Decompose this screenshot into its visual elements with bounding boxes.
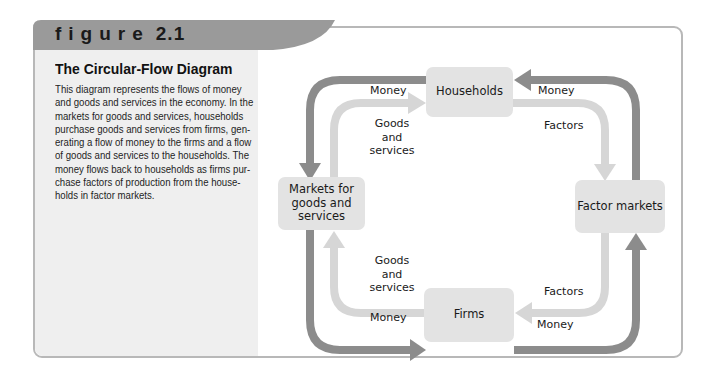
- label-factors-bottom-right: Factors: [544, 285, 583, 299]
- label-money-bottom-right: Money: [537, 318, 573, 332]
- node-firms: Firms: [424, 288, 514, 342]
- node-markets-line: goods and: [289, 197, 354, 211]
- factors-arrow-households-to-factor-markets: [512, 103, 605, 166]
- factors-arrow-factor-markets-to-firms: [530, 232, 605, 313]
- node-households: Households: [426, 67, 513, 117]
- node-markets-for-goods-and-services: Markets for goods and services: [278, 177, 365, 230]
- label-line: Goods: [362, 254, 422, 268]
- node-firms-label: Firms: [454, 308, 485, 322]
- node-factor-markets-label: Factor markets: [577, 200, 663, 214]
- node-markets-label: Markets for goods and services: [289, 183, 354, 224]
- money-arrow-firms-to-factor-markets: [514, 248, 636, 350]
- label-line: services: [362, 144, 422, 158]
- label-money-top-left: Money: [370, 84, 406, 98]
- label-money-bottom-left: Money: [370, 311, 406, 325]
- label-goods-bottom-left: Goods and services: [362, 254, 422, 295]
- label-money-top-right: Money: [538, 84, 574, 98]
- node-markets-line: services: [289, 210, 354, 224]
- label-line: and: [362, 268, 422, 282]
- label-line: services: [362, 281, 422, 295]
- label-line: and: [362, 131, 422, 145]
- node-factor-markets: Factor markets: [575, 180, 665, 233]
- label-goods-top-left: Goods and services: [362, 117, 422, 158]
- label-line: Goods: [362, 117, 422, 131]
- node-markets-line: Markets for: [289, 183, 354, 197]
- node-households-label: Households: [436, 85, 503, 99]
- label-factors-top-right: Factors: [544, 119, 583, 133]
